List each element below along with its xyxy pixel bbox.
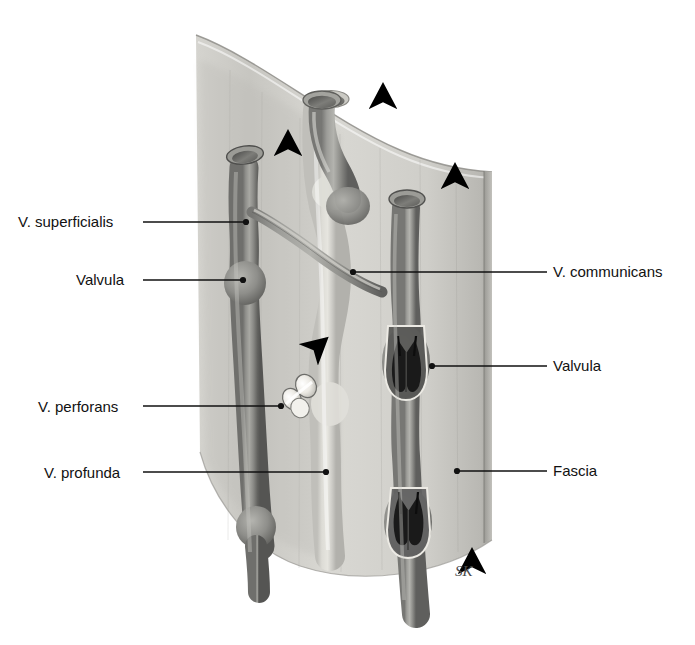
label-text-valvula-left: Valvula bbox=[76, 271, 125, 288]
v-profunda-upper-cut-end bbox=[303, 91, 341, 109]
label-text-v-profunda: V. profunda bbox=[44, 464, 121, 481]
label-text-fascia: Fascia bbox=[553, 462, 598, 479]
anchor-dot-v-perforans bbox=[278, 403, 284, 409]
anchor-dot-v-profunda bbox=[323, 469, 329, 475]
anchor-dot-fascia bbox=[454, 468, 460, 474]
artist-signature: SK bbox=[455, 563, 474, 579]
v-profunda-upper-lumen bbox=[308, 96, 336, 108]
anchor-dot-valvula-right bbox=[429, 363, 435, 369]
anchor-dot-v-communicans bbox=[350, 269, 356, 275]
v-profunda-upper-valve bbox=[326, 187, 370, 225]
label-text-v-communicans: V. communicans bbox=[553, 263, 663, 280]
fascia-right-edge bbox=[484, 171, 492, 543]
valvula-lower-structure bbox=[384, 488, 432, 558]
v-superficialis-valvula-bulge bbox=[224, 261, 266, 305]
anatomical-illustration: SK V. superficialis Valvula V. perforans… bbox=[0, 0, 695, 645]
valvula-upper-structure bbox=[382, 326, 430, 400]
v-superficialis-distal bbox=[256, 546, 259, 592]
label-text-v-superficialis: V. superficialis bbox=[18, 213, 113, 230]
anchor-dot-v-superficialis bbox=[243, 219, 249, 225]
label-text-v-perforans: V. perforans bbox=[38, 398, 118, 415]
right-vein-cut-end bbox=[389, 190, 425, 208]
figure-svg: SK V. superficialis Valvula V. perforans… bbox=[0, 0, 695, 645]
anchor-dot-valvula-left bbox=[240, 277, 246, 283]
right-vein-lumen bbox=[394, 195, 420, 207]
label-text-valvula-right: Valvula bbox=[553, 357, 602, 374]
